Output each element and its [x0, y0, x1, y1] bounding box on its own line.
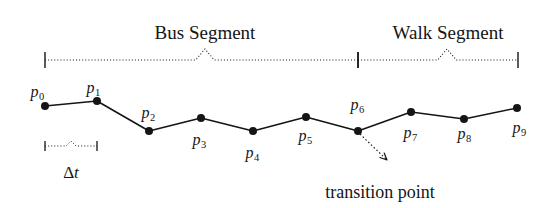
- trajectory-point-marker-p3: [197, 114, 205, 122]
- transition-point-label: transition point: [325, 183, 435, 201]
- point-label-subscript: 3: [201, 139, 206, 150]
- bracket-dotted-span-walk-segment: [358, 49, 518, 60]
- point-label-base: p: [403, 124, 411, 141]
- point-label-p7: p7: [403, 125, 416, 141]
- bracket-bus-segment: [45, 49, 358, 68]
- trajectory-point-marker-p7: [407, 108, 415, 116]
- point-label-subscript: 6: [359, 104, 364, 115]
- point-label-subscript: 8: [466, 133, 471, 144]
- trajectory-point-marker-p1: [93, 97, 101, 105]
- point-label-subscript: 5: [307, 135, 312, 146]
- bracket-dotted-span-delta-t: [45, 141, 97, 146]
- point-label-base: p: [298, 127, 306, 144]
- trajectory-polyline-layer: [45, 101, 517, 131]
- point-label-p9: p9: [512, 120, 525, 136]
- point-label-p3: p3: [192, 132, 205, 148]
- trajectory-polyline: [45, 101, 517, 131]
- point-label-base: p: [192, 131, 200, 148]
- bracket-walk-segment: [358, 49, 518, 68]
- point-label-subscript: 0: [39, 91, 44, 102]
- trajectory-point-marker-p5: [302, 113, 310, 121]
- point-label-base: p: [86, 79, 94, 96]
- transition-point-arrow-layer: [360, 134, 387, 160]
- transition-point-arrow-shaft: [360, 134, 387, 160]
- point-label-p6: p6: [350, 97, 363, 113]
- trajectory-point-markers-layer: [41, 97, 521, 135]
- bracket-delta-t: [45, 141, 97, 151]
- point-label-p4: p4: [245, 145, 258, 161]
- segment-brackets-layer: [45, 49, 518, 151]
- delta-t-label: Δt: [63, 164, 79, 181]
- point-label-base: p: [350, 96, 358, 113]
- point-label-p2: p2: [141, 105, 154, 121]
- point-label-subscript: 9: [521, 127, 526, 138]
- delta-t-variable: t: [74, 163, 79, 182]
- point-label-subscript: 7: [412, 132, 417, 143]
- trajectory-segmentation-figure: Bus Segment Walk Segment Δt transition p…: [0, 0, 552, 208]
- transition-point-arrowhead: [380, 153, 387, 160]
- point-label-base: p: [512, 119, 520, 136]
- point-label-subscript: 4: [254, 152, 259, 163]
- point-label-base: p: [30, 83, 38, 100]
- point-label-p1: p1: [86, 80, 99, 96]
- trajectory-point-marker-p0: [41, 102, 49, 110]
- delta-symbol: Δ: [63, 163, 74, 182]
- point-label-base: p: [141, 104, 149, 121]
- point-label-p5: p5: [298, 128, 311, 144]
- point-label-base: p: [457, 125, 465, 142]
- point-label-p8: p8: [457, 126, 470, 142]
- trajectory-point-marker-p4: [249, 127, 257, 135]
- point-label-base: p: [245, 144, 253, 161]
- trajectory-point-marker-p6: [354, 127, 362, 135]
- point-label-subscript: 2: [150, 112, 155, 123]
- walk-segment-title: Walk Segment: [393, 23, 504, 42]
- trajectory-point-marker-p8: [460, 115, 468, 123]
- point-label-subscript: 1: [95, 87, 100, 98]
- bus-segment-title: Bus Segment: [155, 23, 256, 42]
- point-label-p0: p0: [30, 84, 43, 100]
- trajectory-point-marker-p2: [145, 127, 153, 135]
- trajectory-point-marker-p9: [513, 104, 521, 112]
- bracket-dotted-span-bus-segment: [45, 49, 358, 60]
